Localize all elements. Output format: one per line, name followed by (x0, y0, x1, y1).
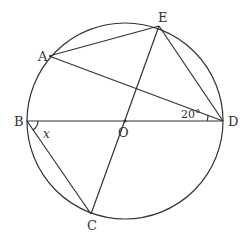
label-d: D (228, 114, 238, 129)
label-e: E (158, 10, 168, 25)
label-o: O (118, 125, 129, 140)
segment-ed (159, 26, 223, 121)
angle-label-x: x (43, 127, 50, 141)
label-c: C (87, 218, 97, 233)
geometry-diagram: A B C D E O 20° x (0, 0, 251, 243)
label-a: A (37, 49, 48, 64)
segment-ae (49, 26, 159, 56)
segment-bc (27, 121, 91, 214)
label-b: B (14, 114, 24, 129)
angle-label-20: 20° (181, 108, 201, 121)
angle-arc-d (207, 115, 208, 121)
angle-arc-b (33, 121, 38, 130)
center-dot (123, 119, 126, 122)
